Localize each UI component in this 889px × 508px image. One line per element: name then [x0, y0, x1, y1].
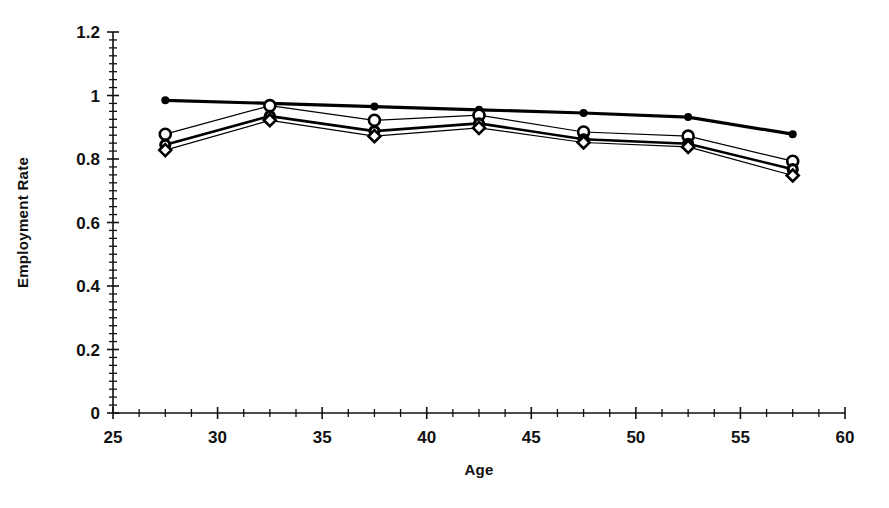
- y-tick-label: 1.2: [76, 23, 100, 42]
- y-tick-label: 0.4: [76, 277, 100, 296]
- marker-filled-circle: [789, 130, 797, 138]
- x-axis: [113, 407, 845, 419]
- chart-figure: 00.20.40.60.811.22530354045505560AgeEmpl…: [0, 0, 889, 508]
- x-tick-label: 50: [626, 428, 645, 447]
- chart-canvas: 00.20.40.60.811.22530354045505560AgeEmpl…: [0, 0, 889, 508]
- marker-filled-circle: [684, 113, 692, 121]
- marker-filled-circle: [580, 109, 588, 117]
- x-tick-label: 60: [836, 428, 855, 447]
- y-tick-label: 0.6: [76, 214, 100, 233]
- marker-open-circle: [160, 129, 171, 140]
- y-tick-label: 0.8: [76, 150, 100, 169]
- x-tick-label: 55: [731, 428, 750, 447]
- x-tick-label: 25: [104, 428, 123, 447]
- marker-filled-circle: [370, 103, 378, 111]
- x-tick-label: 40: [417, 428, 436, 447]
- y-tick-label: 1: [91, 87, 100, 106]
- x-axis-title: Age: [464, 461, 493, 478]
- x-tick-label: 45: [522, 428, 541, 447]
- y-axis-title: Employment Rate: [14, 157, 31, 288]
- axis-labels-group: 00.20.40.60.811.22530354045505560AgeEmpl…: [14, 23, 854, 478]
- y-axis: [107, 32, 119, 413]
- marker-filled-circle: [161, 96, 169, 104]
- data-series-group: [159, 96, 798, 181]
- x-tick-label: 35: [313, 428, 332, 447]
- x-tick-label: 30: [208, 428, 227, 447]
- y-tick-label: 0: [91, 404, 100, 423]
- marker-open-circle: [369, 115, 380, 126]
- y-tick-label: 0.2: [76, 341, 100, 360]
- marker-open-circle: [264, 100, 275, 111]
